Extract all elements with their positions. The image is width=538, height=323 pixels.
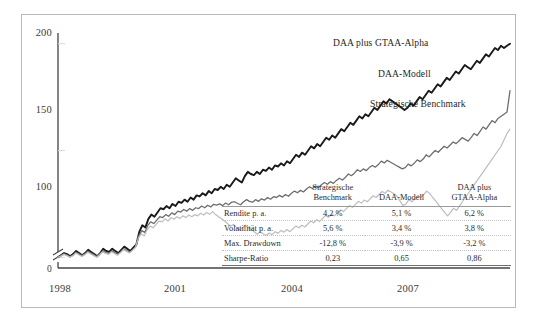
col-header-line1: DAA plus	[457, 183, 491, 192]
cell-sharpe-benchmark: 0,23	[300, 251, 365, 266]
x-tick-2007: 2007	[378, 283, 438, 294]
y-zero-label: 0	[47, 264, 52, 274]
col-header-strategische-benchmark: Strategische Benchmark	[300, 183, 365, 206]
cell-volatilitaet-daa-plus: 3,8 %	[438, 221, 511, 236]
cell-sharpe-daa-modell: 0,65	[365, 251, 437, 266]
y-tick-100: 100	[18, 181, 52, 192]
table-corner-cell	[222, 183, 300, 206]
statistics-table: Strategische Benchmark DAA-Modell DAA pl…	[222, 183, 511, 266]
row-label-rendite: Rendite p. a.	[222, 206, 300, 221]
cell-rendite-daa-plus: 6,2 %	[438, 206, 511, 221]
cell-sharpe-daa-plus: 0,86	[438, 251, 511, 266]
col-header-daa-plus-gtaa-alpha: DAA plus GTAA-Alpha	[438, 183, 511, 206]
col-header-line1: Strategische	[312, 183, 353, 192]
col-header-line2: Benchmark	[313, 193, 352, 202]
x-tick-2004: 2004	[262, 283, 322, 294]
cell-drawdown-daa-plus: -3,2 %	[438, 236, 511, 251]
table-row: Max. Drawdown -12,8 % -3,9 % -3,2 %	[222, 236, 511, 251]
series-label-daa-plus-gtaa-alpha: DAA plus GTAA-Alpha	[333, 37, 428, 48]
col-header-line1: DAA-Modell	[379, 193, 424, 202]
y-tick-150: 150	[18, 104, 52, 115]
cell-drawdown-benchmark: -12,8 %	[300, 236, 365, 251]
table-row: Sharpe-Ratio 0,23 0,65 0,86	[222, 251, 511, 266]
table-row: Rendite p. a. 4,2 % 5,1 % 6,2 %	[222, 206, 511, 221]
series-label-strategische-benchmark: Strategische Benchmark	[370, 98, 466, 109]
table-row: Volatilität p. a. 5,6 % 3,4 % 3,8 %	[222, 221, 511, 236]
cell-rendite-daa-modell: 5,1 %	[365, 206, 437, 221]
y-tick-200: 200	[18, 27, 52, 38]
row-label-sharpe-ratio: Sharpe-Ratio	[222, 251, 300, 266]
chart-canvas	[0, 0, 538, 323]
col-header-daa-modell: DAA-Modell	[365, 183, 437, 206]
col-header-line2: GTAA-Alpha	[451, 193, 497, 202]
figure-root: 200 150 100 0 1998 2001 2004 2007 DAA pl…	[0, 0, 538, 323]
x-tick-1998: 1998	[30, 283, 90, 294]
series-label-daa-modell: DAA-Modell	[378, 68, 431, 79]
cell-drawdown-daa-modell: -3,9 %	[365, 236, 437, 251]
row-label-max-drawdown: Max. Drawdown	[222, 236, 300, 251]
cell-volatilitaet-benchmark: 5,6 %	[300, 221, 365, 236]
x-tick-2001: 2001	[145, 283, 205, 294]
table-header-row: Strategische Benchmark DAA-Modell DAA pl…	[222, 183, 511, 206]
cell-volatilitaet-daa-modell: 3,4 %	[365, 221, 437, 236]
row-label-volatilitaet: Volatilität p. a.	[222, 221, 300, 236]
cell-rendite-benchmark: 4,2 %	[300, 206, 365, 221]
